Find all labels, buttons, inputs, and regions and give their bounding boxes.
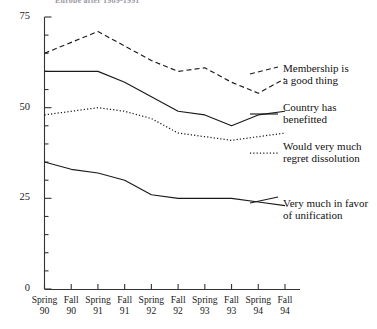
legend-line-sample-4 [250, 197, 278, 203]
chart-figure: Europe after 1989-1991 0255075 Spring90F… [0, 0, 377, 329]
legend-line-samples [250, 67, 278, 203]
legend-label-4: Very much in favor of unification [283, 197, 368, 222]
y-axis-tick-label: 0 [8, 282, 30, 293]
legend-label-2: Country has benefitted [283, 101, 336, 126]
legend-line-sample-1 [250, 67, 278, 74]
series-line-3 [45, 108, 286, 141]
y-axis-ticks [45, 17, 52, 289]
y-axis-tick-label: 25 [8, 191, 30, 202]
axes [45, 17, 301, 290]
series-line-1 [45, 32, 286, 94]
x-axis-ticks [45, 284, 286, 289]
legend-label-3: Would very much regret dissolution [283, 140, 362, 165]
legend-label-1: Membership is a good thing [283, 62, 349, 87]
data-series-group [45, 32, 286, 206]
series-line-2 [45, 71, 286, 125]
x-axis-year-label: 94 [261, 305, 309, 316]
series-line-4 [45, 162, 286, 206]
y-axis-tick-label: 75 [8, 10, 30, 21]
x-axis-tick-label: Fall94 [261, 294, 309, 316]
x-axis-season-label: Fall [261, 294, 309, 305]
y-axis-tick-label: 50 [8, 101, 30, 112]
